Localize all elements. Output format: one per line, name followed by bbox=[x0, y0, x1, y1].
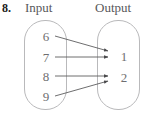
mapping-diagram-figure: 8. Input Output 6 7 8 9 1 2 bbox=[0, 0, 149, 114]
arrow-9-to-2 bbox=[55, 81, 108, 96]
arrow-6-to-1 bbox=[55, 36, 108, 51]
mapping-arrows bbox=[0, 0, 149, 114]
